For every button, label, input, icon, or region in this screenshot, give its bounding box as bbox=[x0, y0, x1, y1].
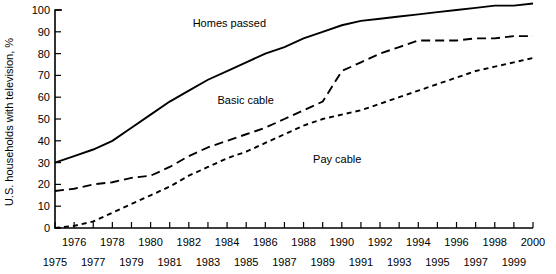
x-tick-label-lower: 1993 bbox=[387, 256, 411, 268]
y-tick-label: 90 bbox=[38, 26, 50, 38]
x-tick-label-lower: 1977 bbox=[81, 256, 105, 268]
x-tick-label-upper: 1990 bbox=[330, 236, 354, 248]
series-label-basic-cable: Basic cable bbox=[218, 94, 274, 106]
x-tick-label-lower: 1979 bbox=[119, 256, 143, 268]
x-tick-label-upper: 1982 bbox=[177, 236, 201, 248]
x-tick-label-lower: 1987 bbox=[272, 256, 296, 268]
y-tick-label: 0 bbox=[44, 222, 50, 234]
x-tick-label-lower: 1985 bbox=[234, 256, 258, 268]
line-chart: U.S. households with television, % 01020… bbox=[0, 0, 556, 274]
x-tick-label-upper: 2000 bbox=[521, 236, 545, 248]
x-tick-label-upper: 1992 bbox=[368, 236, 392, 248]
x-tick-label-upper: 1986 bbox=[253, 236, 277, 248]
y-tick-label: 20 bbox=[38, 178, 50, 190]
y-tick-label: 80 bbox=[38, 48, 50, 60]
series-line-pay-cable bbox=[55, 58, 533, 228]
series-annotation-labels: Homes passedBasic cablePay cable bbox=[193, 17, 362, 164]
data-series-group bbox=[55, 3, 533, 228]
chart-container: U.S. households with television, % 01020… bbox=[0, 0, 556, 274]
x-tick-label-upper: 1984 bbox=[215, 236, 239, 248]
y-tick-label: 100 bbox=[32, 4, 50, 16]
y-axis-tick-labels: 0102030405060708090100 bbox=[32, 4, 50, 234]
x-tick-label-lower: 1975 bbox=[43, 256, 67, 268]
x-tick-label-lower: 1983 bbox=[196, 256, 220, 268]
x-tick-label-upper: 1976 bbox=[62, 236, 86, 248]
x-tick-label-lower: 1989 bbox=[310, 256, 334, 268]
y-tick-label: 60 bbox=[38, 91, 50, 103]
series-line-basic-cable bbox=[55, 36, 533, 191]
x-tick-label-lower: 1999 bbox=[502, 256, 526, 268]
y-axis-ticks bbox=[55, 10, 61, 228]
x-tick-label-lower: 1981 bbox=[157, 256, 181, 268]
series-label-pay-cable: Pay cable bbox=[313, 153, 361, 165]
x-axis-ticks bbox=[55, 222, 533, 228]
x-tick-label-upper: 1980 bbox=[138, 236, 162, 248]
series-label-homes-passed: Homes passed bbox=[193, 17, 266, 29]
x-tick-label-upper: 1978 bbox=[100, 236, 124, 248]
x-tick-label-lower: 1991 bbox=[349, 256, 373, 268]
x-tick-label-upper: 1994 bbox=[406, 236, 430, 248]
y-tick-label: 70 bbox=[38, 69, 50, 81]
y-tick-label: 40 bbox=[38, 135, 50, 147]
x-tick-label-upper: 1988 bbox=[291, 236, 315, 248]
x-tick-label-upper: 1998 bbox=[483, 236, 507, 248]
y-axis-title: U.S. households with television, % bbox=[3, 38, 15, 206]
series-line-homes-passed bbox=[55, 3, 533, 162]
x-axis-tick-labels: 1976197819801982198419861988199019921994… bbox=[43, 236, 545, 268]
y-tick-label: 10 bbox=[38, 200, 50, 212]
y-tick-label: 30 bbox=[38, 157, 50, 169]
x-tick-label-lower: 1995 bbox=[425, 256, 449, 268]
y-tick-label: 50 bbox=[38, 113, 50, 125]
x-tick-label-lower: 1997 bbox=[463, 256, 487, 268]
x-tick-label-upper: 1996 bbox=[444, 236, 468, 248]
y-axis-title-text: U.S. households with television, % bbox=[3, 38, 15, 206]
